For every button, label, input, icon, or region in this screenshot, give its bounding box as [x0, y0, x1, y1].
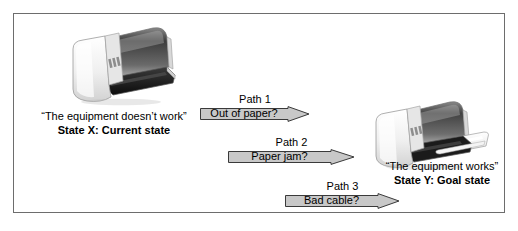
- state-label-left: “The equipment doesn’t work” State X: Cu…: [24, 110, 204, 137]
- path-2-caption: Path 2: [228, 136, 355, 148]
- path-3-arrow-shape: [285, 193, 400, 209]
- path-1-arrow-shape: [200, 106, 310, 122]
- state-right-quote: “The equipment works”: [362, 160, 518, 173]
- path-1-caption: Path 1: [200, 93, 310, 105]
- path-2-arrow-shape: [228, 149, 355, 165]
- diagram-frame: “The equipment doesn’t work” State X: Cu…: [13, 13, 505, 213]
- printer-broken-icon: [61, 23, 179, 107]
- path-3-caption: Path 3: [285, 180, 400, 192]
- state-left-name: State X: Current state: [24, 124, 204, 137]
- state-left-quote: “The equipment doesn’t work”: [24, 110, 204, 123]
